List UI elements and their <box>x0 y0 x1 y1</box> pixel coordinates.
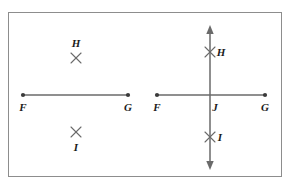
label-f-right: F <box>153 102 160 113</box>
label-i-left: I <box>74 142 78 153</box>
label-j: J <box>212 102 218 113</box>
label-i-right: I <box>218 132 222 143</box>
label-h-left: H <box>72 38 81 49</box>
arrowhead-down-icon <box>206 161 213 170</box>
point-g-dot-left <box>126 93 130 97</box>
label-h-right: H <box>217 47 226 58</box>
left-panel-graphics <box>21 53 130 137</box>
label-g-left: G <box>124 102 132 113</box>
point-f-dot-left <box>21 93 25 97</box>
point-f-dot-right <box>155 93 159 97</box>
arrowhead-up-icon <box>206 25 213 34</box>
label-f-left: F <box>19 102 26 113</box>
right-panel-graphics <box>155 25 267 170</box>
diagram-canvas: F G H I F G H I J <box>0 0 294 190</box>
point-g-dot-right <box>263 93 267 97</box>
mark-i-cross-left <box>71 127 81 137</box>
diagram-graphics <box>0 0 294 190</box>
mark-h-cross-left <box>71 53 81 63</box>
label-g-right: G <box>261 102 269 113</box>
